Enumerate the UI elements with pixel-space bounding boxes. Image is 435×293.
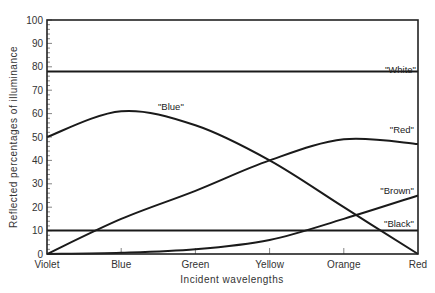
series-label-white: "White" [385, 64, 416, 75]
x-tick-label: Violet [35, 259, 60, 270]
y-tick-label: 60 [32, 108, 44, 119]
y-tick-label: 0 [37, 249, 43, 260]
series-line-blue [47, 111, 418, 254]
x-tick-label: Yellow [255, 259, 284, 270]
series-label-blue: "Blue" [158, 101, 184, 112]
y-tick-label: 50 [32, 132, 44, 143]
reflectance-chart: 0102030405060708090100 VioletBlueGreenYe… [0, 0, 435, 293]
series-line-red [47, 139, 418, 254]
y-axis-title: Reflected percentages of illuminance [8, 46, 19, 228]
x-axis-ticks: VioletBlueGreenYellowOrangeRed [35, 248, 428, 270]
y-tick-label: 100 [26, 15, 43, 26]
series-label-black: "Black" [384, 218, 414, 229]
y-tick-label: 70 [32, 85, 44, 96]
series-group [47, 71, 418, 254]
series-line-brown [47, 196, 418, 255]
x-tick-label: Blue [111, 259, 131, 270]
y-tick-label: 30 [32, 178, 44, 189]
x-tick-label: Orange [327, 259, 361, 270]
y-tick-label: 40 [32, 155, 44, 166]
y-tick-label: 10 [32, 225, 44, 236]
y-tick-label: 80 [32, 61, 44, 72]
y-tick-label: 20 [32, 202, 44, 213]
series-labels: "White""Blue""Red""Brown""Black" [158, 64, 416, 229]
series-label-brown: "Brown" [380, 185, 414, 196]
x-axis-title: Incident wavelengths [180, 274, 283, 285]
y-tick-label: 90 [32, 38, 44, 49]
x-tick-label: Green [182, 259, 210, 270]
series-label-red: "Red" [390, 124, 414, 135]
x-tick-label: Red [409, 259, 427, 270]
